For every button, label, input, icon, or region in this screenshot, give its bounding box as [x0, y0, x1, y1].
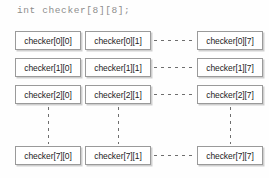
array-cell-label: checker[1][1]: [94, 63, 141, 73]
array-cell-label: checker[2][1]: [94, 90, 141, 100]
array-cell-0-1: checker[0][1]: [85, 31, 151, 50]
array-cell-label: checker[7][1]: [94, 151, 141, 161]
vertical-ellipsis-column-1: [118, 107, 119, 144]
array-cell-1-7: checker[1][7]: [197, 58, 263, 77]
horizontal-ellipsis-row-1: [154, 67, 195, 68]
array-cell-label: checker[0][1]: [94, 36, 141, 46]
array-cell-label: checker[0][7]: [206, 36, 253, 46]
array-cell-7-7: checker[7][7]: [197, 146, 263, 165]
vertical-ellipsis-column-0: [48, 107, 49, 144]
array-cell-1-0: checker[1][0]: [15, 58, 81, 77]
array-cell-2-1: checker[2][1]: [85, 85, 151, 104]
array-cell-label: checker[1][0]: [24, 63, 71, 73]
array-cell-label: checker[1][7]: [206, 63, 253, 73]
figure-title-code: int checker[8][8];: [17, 5, 130, 16]
array-cell-label: checker[2][7]: [206, 90, 253, 100]
array-cell-2-7: checker[2][7]: [197, 85, 263, 104]
array-cell-label: checker[7][0]: [24, 151, 71, 161]
array-cell-2-0: checker[2][0]: [15, 85, 81, 104]
array-diagram-figure: int checker[8][8]; checker[0][0] checker…: [0, 0, 269, 178]
array-cell-7-1: checker[7][1]: [85, 146, 151, 165]
array-cell-7-0: checker[7][0]: [15, 146, 81, 165]
array-cell-0-7: checker[0][7]: [197, 31, 263, 50]
array-cell-0-0: checker[0][0]: [15, 31, 81, 50]
array-cell-label: checker[7][7]: [206, 151, 253, 161]
horizontal-ellipsis-row-2: [154, 94, 195, 95]
vertical-ellipsis-column-7: [230, 107, 231, 144]
array-cell-label: checker[2][0]: [24, 90, 71, 100]
array-cell-1-1: checker[1][1]: [85, 58, 151, 77]
array-cell-label: checker[0][0]: [24, 36, 71, 46]
horizontal-ellipsis-row-0: [154, 40, 195, 41]
horizontal-ellipsis-row-7: [154, 155, 195, 156]
